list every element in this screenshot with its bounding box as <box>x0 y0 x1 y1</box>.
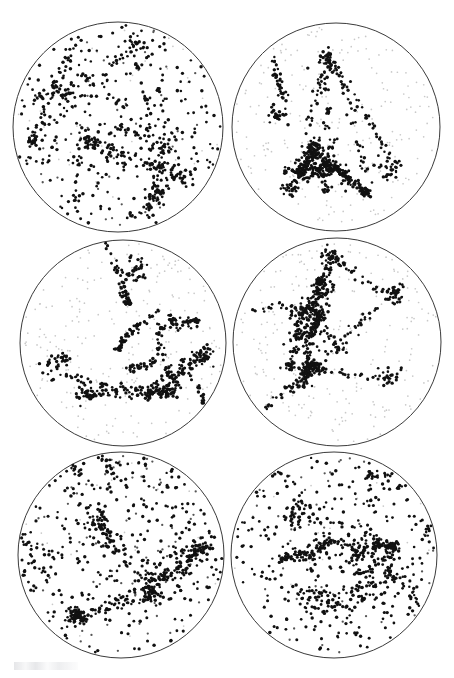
panel-plot-top-right <box>229 20 443 234</box>
panel-top-left <box>10 19 226 235</box>
panel-bottom-right <box>228 449 440 661</box>
panel-plot-bottom-left <box>15 449 227 661</box>
panel-middle-left <box>17 237 229 449</box>
panel-plot-bottom-right <box>228 449 440 661</box>
panel-middle-right <box>230 235 444 449</box>
panel-top-right <box>229 20 443 234</box>
panel-disc-outline <box>231 452 437 658</box>
panel-plot-middle-right <box>230 235 444 449</box>
panel-plot-middle-left <box>17 237 229 449</box>
panel-disc-outline <box>233 238 441 446</box>
scan-smudge-artifact <box>14 662 78 670</box>
figure-root: Six-panel circular sky projections of po… <box>0 0 454 678</box>
panel-disc-outline <box>232 23 440 231</box>
panel-bottom-left <box>15 449 227 661</box>
panel-plot-top-left <box>10 19 226 235</box>
